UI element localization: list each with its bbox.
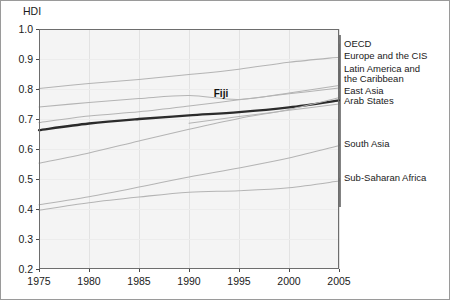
legend-label-europe-and-the-cis: Europe and the CIS [344,50,427,61]
legend-label-oecd: OECD [344,38,372,49]
legend-label-the-caribbean: the Caribbean [344,73,404,84]
y-tick-label: 0.6 [18,143,33,155]
hdi-trend-figure: 0.20.30.40.50.60.70.80.91.0 197519801985… [0,0,450,300]
legend: OECDEurope and the CISLatin America andt… [344,38,427,183]
x-axis-ticks: 1975198019851990199520002005 [27,269,351,287]
y-tick-label: 0.3 [18,233,33,245]
legend-label-sub-saharan-africa: Sub-Saharan Africa [344,172,427,183]
x-tick-label: 2000 [277,275,301,287]
y-tick-label: 0.7 [18,113,33,125]
legend-label-south-asia: South Asia [344,138,390,149]
y-axis-title: HDI [23,5,41,17]
x-tick-label: 2005 [327,275,351,287]
x-tick-label: 1990 [177,275,201,287]
x-tick-label: 1980 [77,275,101,287]
y-tick-label: 0.5 [18,173,33,185]
y-tick-label: 0.2 [18,263,33,275]
annotation-fiji: Fiji [214,88,229,99]
x-tick-label: 1985 [127,275,151,287]
y-axis-ticks: 0.20.30.40.50.60.70.80.91.0 [18,23,39,275]
y-tick-label: 1.0 [18,23,33,35]
x-tick-label: 1995 [227,275,251,287]
y-tick-label: 0.8 [18,83,33,95]
y-tick-label: 0.9 [18,53,33,65]
series-annotations: Fiji [214,88,229,99]
hdi-line-chart: 0.20.30.40.50.60.70.80.91.0 197519801985… [1,1,450,300]
x-tick-label: 1975 [27,275,51,287]
legend-label-arab-states: Arab States [344,95,394,106]
y-tick-label: 0.4 [18,203,33,215]
